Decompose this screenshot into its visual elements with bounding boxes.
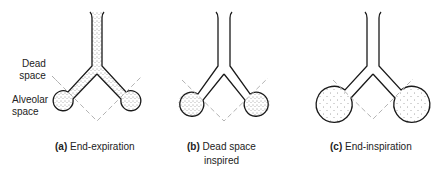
caption-c: (c) End-inspiration	[330, 140, 412, 154]
alveolus-b-right	[246, 92, 270, 116]
caption-b-letter: (b)	[187, 141, 200, 152]
caption-b-text: Dead space	[203, 141, 256, 152]
dead-space-label-line1: Dead	[22, 58, 46, 70]
dead-space-label-line2: space	[17, 70, 46, 82]
airway-fill-a	[53, 14, 141, 111]
caption-c-text: End-inspiration	[345, 141, 412, 152]
alveolar-space-label-line2: space	[12, 106, 48, 118]
dead-space-label: Dead space	[22, 58, 46, 82]
panel-c	[316, 12, 430, 123]
caption-a-text: End-expiration	[70, 141, 134, 152]
alveolar-space-label: Alveolar space	[12, 94, 48, 118]
caption-c-letter: (c)	[330, 141, 342, 152]
caption-b: (b) Dead space inspired	[187, 140, 256, 168]
panel-a	[52, 12, 142, 121]
alveolar-space-label-line1: Alveolar	[12, 94, 48, 106]
alveolus-b-left	[178, 92, 202, 116]
caption-a-letter: (a)	[55, 141, 67, 152]
caption-a: (a) End-expiration	[55, 140, 135, 154]
panel-b	[178, 12, 270, 121]
caption-b-text-line2: inspired	[187, 154, 256, 168]
